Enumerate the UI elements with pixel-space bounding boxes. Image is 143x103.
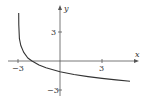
x-tick-label-3: 3 [99,64,104,73]
x-tick-label-neg3: −3 [12,64,24,73]
graph: −3 3 3 −3 x y [0,0,143,103]
x-axis-label: x [135,50,140,59]
y-tick-label-neg3: −3 [47,86,59,95]
y-axis-arrow-icon [58,5,62,10]
y-axis-label: y [63,4,69,13]
y-tick-label-3: 3 [51,28,56,37]
function-curve [19,13,130,81]
x-axis-arrow-icon [134,59,139,63]
